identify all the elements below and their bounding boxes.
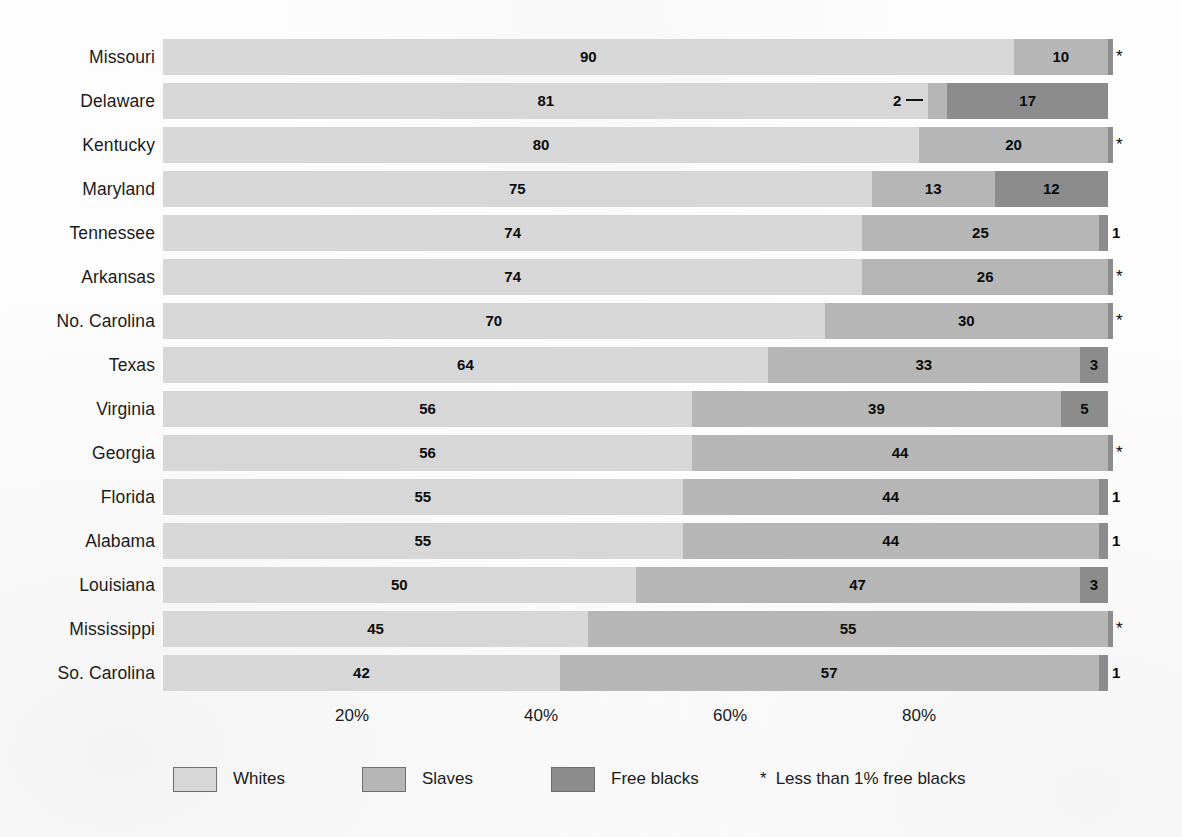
footnote-star-marker: *: [1116, 39, 1123, 75]
axis-tick-label: 40%: [524, 706, 558, 726]
segment-value-label: 47: [636, 567, 1080, 603]
segment-whites[interactable]: 81: [163, 83, 928, 119]
segment-value-label: 5: [1061, 391, 1108, 427]
stacked-bar-chart: Missouri9010*Delaware81217Kentucky8020*M…: [0, 0, 1182, 837]
legend-swatch-icon: [362, 767, 406, 792]
segment-whites[interactable]: 70: [163, 303, 825, 339]
segment-slaves[interactable]: 26: [862, 259, 1108, 295]
segment-value-label: 26: [862, 259, 1108, 295]
segment-whites[interactable]: 74: [163, 259, 862, 295]
row-label-state: Georgia: [0, 435, 155, 471]
stacked-bar[interactable]: 4555: [163, 611, 1108, 647]
stacked-bar[interactable]: 8020: [163, 127, 1108, 163]
segment-free-blacks[interactable]: [1099, 215, 1108, 251]
segment-whites[interactable]: 74: [163, 215, 862, 251]
row-label-state: Delaware: [0, 83, 155, 119]
segment-value-label: 33: [768, 347, 1080, 383]
chart-row: Arkansas7426*: [0, 259, 1182, 295]
axis-tick-label: 20%: [335, 706, 369, 726]
segment-whites[interactable]: 64: [163, 347, 768, 383]
chart-row: Georgia5644*: [0, 435, 1182, 471]
segment-value-label: 12: [995, 171, 1108, 207]
stacked-bar[interactable]: 5544: [163, 523, 1108, 559]
segment-free-blacks[interactable]: [1108, 39, 1113, 75]
segment-value-label: 90: [163, 39, 1014, 75]
segment-slaves[interactable]: 44: [683, 479, 1099, 515]
stacked-bar[interactable]: 4257: [163, 655, 1108, 691]
segment-value-label: 50: [163, 567, 636, 603]
segment-whites[interactable]: 55: [163, 523, 683, 559]
segment-slaves[interactable]: 2: [928, 83, 947, 119]
segment-slaves[interactable]: 44: [683, 523, 1099, 559]
segment-free-blacks[interactable]: 3: [1080, 567, 1108, 603]
stacked-bar[interactable]: 7426: [163, 259, 1108, 295]
segment-value-label: 10: [1014, 39, 1109, 75]
trailing-value-label: 1: [1112, 655, 1120, 691]
stacked-bar[interactable]: 751312: [163, 171, 1108, 207]
segment-slaves[interactable]: 13: [872, 171, 995, 207]
legend-footnote-text: Less than 1% free blacks: [776, 769, 966, 789]
stacked-bar[interactable]: 9010: [163, 39, 1108, 75]
stacked-bar[interactable]: 81217: [163, 83, 1108, 119]
stacked-bar[interactable]: 7425: [163, 215, 1108, 251]
stacked-bar[interactable]: 5544: [163, 479, 1108, 515]
footnote-star-marker: *: [1116, 435, 1123, 471]
stacked-bar[interactable]: 50473: [163, 567, 1108, 603]
segment-whites[interactable]: 75: [163, 171, 872, 207]
legend-label: Slaves: [422, 769, 473, 789]
stacked-bar[interactable]: 7030: [163, 303, 1108, 339]
legend-item[interactable]: Whites: [173, 762, 285, 796]
segment-whites[interactable]: 55: [163, 479, 683, 515]
row-label-state: Mississippi: [0, 611, 155, 647]
segment-slaves[interactable]: 39: [692, 391, 1061, 427]
segment-value-label: 13: [872, 171, 995, 207]
segment-free-blacks[interactable]: 17: [947, 83, 1108, 119]
segment-free-blacks[interactable]: [1108, 259, 1113, 295]
segment-value-text: 2: [893, 92, 901, 109]
segment-slaves[interactable]: 10: [1014, 39, 1109, 75]
segment-whites[interactable]: 56: [163, 391, 692, 427]
legend-label: Free blacks: [611, 769, 699, 789]
segment-slaves[interactable]: 20: [919, 127, 1108, 163]
segment-slaves[interactable]: 44: [692, 435, 1108, 471]
segment-slaves[interactable]: 25: [862, 215, 1098, 251]
segment-free-blacks[interactable]: [1108, 303, 1113, 339]
segment-value-label: 39: [692, 391, 1061, 427]
chart-row: Kentucky8020*: [0, 127, 1182, 163]
segment-free-blacks[interactable]: 5: [1061, 391, 1108, 427]
segment-whites[interactable]: 80: [163, 127, 919, 163]
segment-value-label: 25: [862, 215, 1098, 251]
chart-row: Florida55441: [0, 479, 1182, 515]
stacked-bar[interactable]: 5644: [163, 435, 1108, 471]
segment-free-blacks[interactable]: 3: [1080, 347, 1108, 383]
trailing-value-label: 1: [1112, 215, 1120, 251]
segment-free-blacks[interactable]: [1108, 611, 1113, 647]
row-label-state: Arkansas: [0, 259, 155, 295]
segment-whites[interactable]: 50: [163, 567, 636, 603]
legend-footnote: *Less than 1% free blacks: [760, 762, 966, 796]
segment-whites[interactable]: 42: [163, 655, 560, 691]
segment-value-label: 74: [163, 259, 862, 295]
segment-free-blacks[interactable]: [1108, 127, 1113, 163]
segment-slaves[interactable]: 55: [588, 611, 1108, 647]
segment-free-blacks[interactable]: [1099, 655, 1108, 691]
row-label-state: Florida: [0, 479, 155, 515]
segment-slaves[interactable]: 57: [560, 655, 1099, 691]
segment-slaves[interactable]: 33: [768, 347, 1080, 383]
segment-value-label: 75: [163, 171, 872, 207]
axis-tick-label: 80%: [902, 706, 936, 726]
segment-slaves[interactable]: 47: [636, 567, 1080, 603]
segment-free-blacks[interactable]: [1099, 523, 1108, 559]
legend-item[interactable]: Slaves: [362, 762, 473, 796]
legend-item[interactable]: Free blacks: [551, 762, 699, 796]
stacked-bar[interactable]: 64333: [163, 347, 1108, 383]
chart-legend: WhitesSlavesFree blacks*Less than 1% fre…: [0, 762, 1182, 802]
segment-free-blacks[interactable]: [1108, 435, 1113, 471]
segment-slaves[interactable]: 30: [825, 303, 1109, 339]
segment-whites[interactable]: 90: [163, 39, 1014, 75]
segment-free-blacks[interactable]: 12: [995, 171, 1108, 207]
stacked-bar[interactable]: 56395: [163, 391, 1108, 427]
segment-whites[interactable]: 45: [163, 611, 588, 647]
segment-whites[interactable]: 56: [163, 435, 692, 471]
segment-free-blacks[interactable]: [1099, 479, 1108, 515]
